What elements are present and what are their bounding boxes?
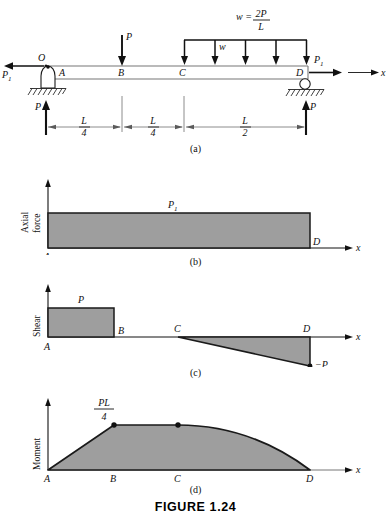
shear-label-d: D — [302, 323, 311, 334]
distributed-load — [181, 40, 310, 65]
left-axial-load-arrow — [4, 62, 44, 69]
dimension-line-bc: L 4 — [124, 115, 183, 138]
beam-point-label-a: A — [58, 67, 66, 78]
moment-vertical-axis — [45, 398, 51, 470]
moment-label-b: B — [110, 473, 116, 484]
label-right-axial-load: P1 — [313, 54, 324, 68]
axial-value-label: P1 — [167, 199, 178, 213]
moment-marker-c — [175, 422, 180, 427]
dl-expr-numerator: 2P — [255, 8, 266, 19]
shear-positive-area — [48, 308, 114, 337]
dim-ab-numerator: L — [80, 115, 87, 126]
figure-1-24: O P1 P1 x — [0, 0, 391, 528]
moment-area — [48, 425, 310, 470]
roller-support — [286, 79, 324, 96]
axial-ylabel-line1: Axial — [20, 212, 30, 233]
panel-caption-c: (c) — [0, 367, 391, 378]
dim-cd-denominator: 2 — [243, 127, 248, 138]
point-load-arrow — [118, 35, 126, 66]
axial-ylabel-line2: force — [32, 213, 42, 233]
label-right-reaction: P — [309, 101, 316, 112]
right-reaction-arrow — [302, 100, 310, 135]
shear-label-c: C — [174, 323, 181, 334]
moment-marker-b — [111, 422, 116, 427]
axial-x-axis-label: x — [355, 242, 361, 253]
shear-x-axis-label: x — [355, 331, 361, 342]
dimension-line-cd: L 2 — [186, 115, 305, 138]
label-distributed-load-symbol: w — [219, 41, 226, 52]
shear-label-a: A — [43, 341, 51, 352]
beam-point-label-b: B — [118, 67, 124, 78]
panel-caption-d: (d) — [0, 484, 391, 495]
dl-expr-lhs: w = — [236, 11, 252, 22]
moment-diagram: x PL 4 A B C D Moment — [0, 385, 391, 490]
axial-y-axis-label: Axial force — [20, 212, 42, 233]
dimension-line-ab: L 4 — [48, 115, 121, 138]
dim-bc-numerator: L — [149, 115, 156, 126]
moment-peak-numerator: PL — [97, 397, 110, 408]
figure-title: FIGURE 1.24 — [0, 500, 391, 514]
moment-y-axis-label: Moment — [32, 437, 42, 470]
right-axial-load-arrow — [309, 69, 342, 76]
distributed-load-expression: w = 2P L — [236, 8, 270, 32]
shear-diagram: x P −P A B C D Shear — [0, 275, 391, 367]
beam-point-label-c: C — [179, 67, 186, 78]
label-left-reaction: P — [34, 101, 41, 112]
label-x-axis: x — [380, 67, 386, 78]
shear-y-axis-label: Shear — [32, 315, 42, 337]
beam-loading-diagram: O P1 P1 x — [0, 0, 391, 150]
label-origin: O — [38, 52, 45, 63]
x-axis-arrow — [348, 70, 379, 76]
label-point-load: P — [125, 31, 132, 42]
axial-label-a: A — [43, 251, 51, 255]
beam-body — [46, 66, 308, 79]
moment-peak-label: PL 4 — [94, 397, 114, 422]
moment-label-c: C — [174, 473, 181, 484]
panel-caption-a: (a) — [0, 143, 391, 154]
beam-point-label-d: D — [295, 67, 304, 78]
shear-negative-area — [178, 337, 310, 366]
moment-label-a: A — [43, 473, 51, 484]
moment-peak-denominator: 4 — [102, 411, 107, 422]
shear-label-b: B — [118, 325, 124, 336]
axial-label-d: D — [312, 236, 321, 247]
moment-x-axis-label: x — [355, 464, 361, 475]
label-left-axial-load: P1 — [1, 69, 12, 83]
shear-positive-label: P — [77, 294, 84, 305]
panel-caption-b: (b) — [0, 256, 391, 267]
axial-force-diagram: x P1 A D Axial force — [0, 170, 391, 255]
dim-cd-numerator: L — [241, 115, 248, 126]
shear-negative-label: −P — [315, 359, 328, 367]
dl-expr-denominator: L — [257, 21, 264, 32]
left-reaction-arrow — [42, 100, 50, 135]
moment-label-d: D — [305, 473, 314, 484]
axial-force-area — [48, 213, 310, 248]
dim-bc-denominator: 4 — [151, 127, 156, 138]
dim-ab-denominator: 4 — [82, 127, 87, 138]
